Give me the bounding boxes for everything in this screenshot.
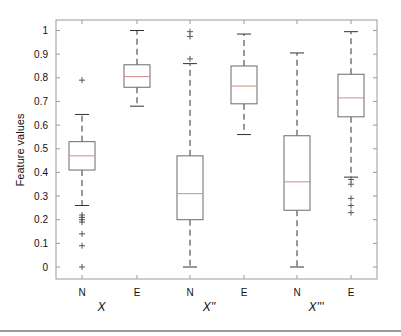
x-axis-ticks: NENENE [78,20,354,298]
y-tick-label: 0.1 [34,238,48,249]
y-tick-label: 0.3 [34,191,48,202]
x-tick-label: N [293,287,300,298]
y-tick-label: 0.6 [34,120,48,131]
y-tick-label: 0.2 [34,214,48,225]
y-tick-label: 0.9 [34,49,48,60]
group-label: X''' [308,300,325,314]
x-tick-label: N [186,287,193,298]
bottom-divider [0,330,401,332]
x-axis-group-labels: XX''X''' [96,300,324,314]
box-plot-chart: Feature values 00.10.20.30.40.50.60.70.8… [0,0,401,336]
group-label: X [96,300,106,314]
iqr-box [177,156,203,220]
box-Xpp-N [177,29,203,267]
group-label: X'' [202,300,216,314]
y-tick-label: 0.4 [34,167,48,178]
iqr-box [284,136,310,210]
y-tick-label: 0 [42,262,48,273]
y-tick-label: 0.5 [34,143,48,154]
x-tick-label: E [134,287,141,298]
box-Xpp-E [231,34,257,135]
y-tick-label: 1 [42,25,48,36]
iqr-box [124,65,150,87]
y-axis-title: Feature values [14,113,26,186]
y-tick-label: 0.7 [34,96,48,107]
iqr-box [338,74,364,117]
box-Xppp-E [338,32,364,216]
x-tick-label: E [348,287,355,298]
x-tick-label: E [241,287,248,298]
y-axis-label: Feature values [14,113,26,186]
y-tick-label: 0.8 [34,72,48,83]
box-Xppp-N [284,53,310,267]
box-X-N [69,77,95,270]
plot-area [56,20,377,279]
axes-frame [56,20,377,279]
x-tick-label: N [78,287,85,298]
iqr-box [231,66,257,104]
box-X-E [124,31,150,107]
